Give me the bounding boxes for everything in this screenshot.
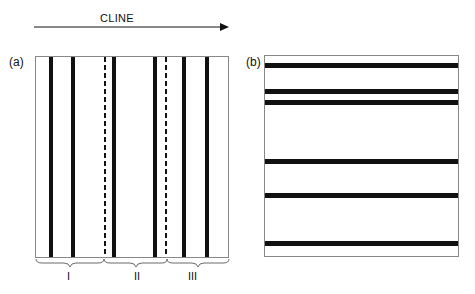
horizontal-line bbox=[265, 159, 458, 164]
solid-line bbox=[112, 57, 116, 257]
panel-b bbox=[264, 55, 459, 257]
horizontal-line bbox=[265, 89, 458, 94]
solid-line bbox=[71, 57, 75, 257]
panel-b-label: (b) bbox=[246, 55, 261, 69]
solid-line bbox=[153, 57, 157, 257]
horizontal-line bbox=[265, 63, 458, 68]
group-braces bbox=[34, 258, 232, 270]
panel-a bbox=[35, 56, 229, 258]
dashed-line bbox=[165, 57, 167, 257]
panel-a-label: (a) bbox=[9, 55, 24, 69]
horizontal-line bbox=[265, 241, 458, 246]
group-label-ii: II bbox=[134, 270, 140, 282]
horizontal-line bbox=[265, 100, 458, 105]
dashed-line bbox=[104, 57, 106, 257]
group-label-iii: III bbox=[188, 270, 197, 282]
solid-line bbox=[205, 57, 209, 257]
solid-line bbox=[182, 57, 186, 257]
group-label-i: I bbox=[67, 270, 70, 282]
solid-line bbox=[49, 57, 53, 257]
cline-arrow-icon bbox=[30, 22, 230, 32]
horizontal-line bbox=[265, 193, 458, 198]
